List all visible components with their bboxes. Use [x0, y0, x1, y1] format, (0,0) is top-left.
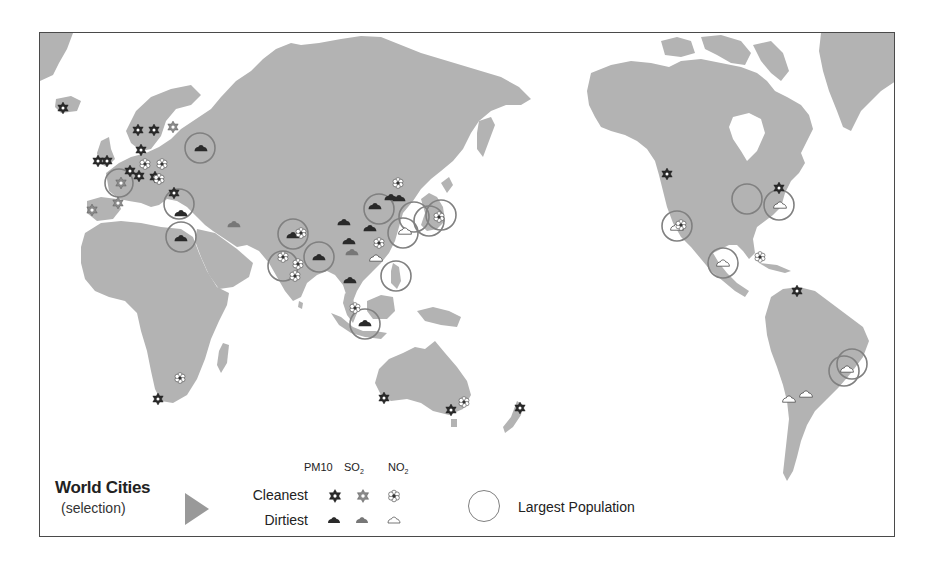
no2-cleanest-flower-icon — [755, 252, 765, 263]
legend-population-label: Largest Population — [518, 499, 635, 515]
light-star-icon — [356, 489, 370, 503]
no2-dirtiest-cloud-icon — [717, 260, 730, 266]
pm10-dirtiest-cloud-icon — [359, 320, 372, 326]
dark-star-icon — [328, 489, 342, 503]
outline-flower-icon — [387, 489, 401, 503]
legend-arrow-icon — [185, 493, 209, 525]
no2-cleanest-flower-icon — [154, 174, 164, 185]
legend-row-dirtiest: Dirtiest — [228, 512, 308, 528]
no2-cleanest-flower-icon — [290, 271, 300, 282]
world-map — [40, 33, 895, 537]
legend-title: World Cities — [55, 478, 150, 498]
dark-cloud-icon — [327, 515, 341, 525]
no2-cleanest-flower-icon — [350, 303, 360, 314]
grey-cloud-icon — [355, 515, 369, 525]
outline-cloud-icon — [387, 515, 401, 525]
legend-row-cleanest: Cleanest — [228, 487, 308, 503]
no2-cleanest-flower-icon — [175, 373, 185, 384]
no2-cleanest-flower-icon — [278, 252, 288, 263]
no2-cleanest-flower-icon — [676, 220, 686, 231]
no2-cleanest-flower-icon — [459, 397, 469, 408]
no2-cleanest-flower-icon — [374, 238, 384, 249]
population-circle-icon — [468, 490, 500, 522]
so2-cleanest-star-icon — [168, 121, 178, 133]
no2-cleanest-flower-icon — [157, 159, 167, 170]
legend-column-pm10: PM10 — [304, 461, 333, 473]
no2-cleanest-flower-icon — [296, 228, 306, 239]
map-frame — [39, 32, 895, 537]
land-layer — [40, 33, 895, 481]
legend-subtitle: (selection) — [61, 500, 126, 516]
no2-cleanest-flower-icon — [140, 159, 150, 170]
pm10-dirtiest-cloud-icon — [175, 210, 188, 216]
legend-column-no2: NO2 — [388, 461, 408, 475]
no2-cleanest-flower-icon — [293, 259, 303, 270]
no2-dirtiest-cloud-icon — [399, 228, 412, 234]
no2-cleanest-flower-icon — [393, 178, 403, 189]
no2-cleanest-flower-icon — [434, 212, 444, 223]
legend-column-so2: SO2 — [344, 461, 364, 475]
